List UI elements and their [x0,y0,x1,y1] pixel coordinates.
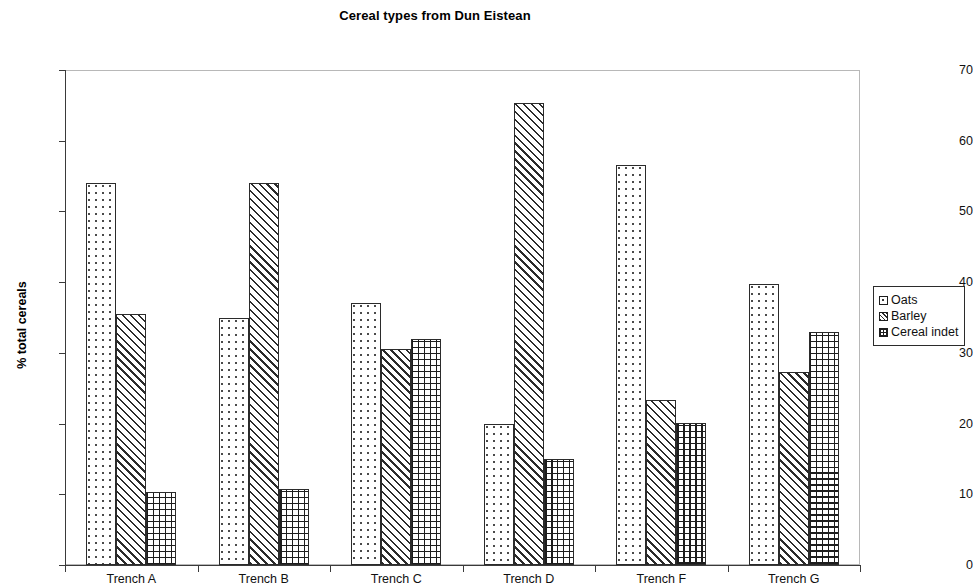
x-axis-category-label: Trench A [65,572,198,586]
y-tick-mark [59,424,65,425]
bar-cereal-indet-trench-c [411,339,441,565]
y-tick-label: 30 [931,346,973,360]
bar-cereal-indet-trench-a [146,492,176,565]
bar-barley-trench-g [779,372,809,565]
bar-oats-trench-c [351,303,381,565]
y-tick-mark [59,494,65,495]
y-tick-mark [59,353,65,354]
chart-title: Cereal types from Dun Eistean [0,8,870,23]
y-axis-line [65,70,66,566]
x-axis-category-label: Trench G [728,572,861,586]
y-tick-label: 60 [931,134,973,148]
plot-area [65,70,860,565]
y-tick-label: 50 [931,204,973,218]
legend-item[interactable]: Barley [879,308,960,324]
y-axis-title: % total cereals [15,245,29,405]
x-tick-mark [860,566,861,572]
bar-cereal-indet-trench-b [279,489,309,565]
bar-barley-trench-f [646,400,676,565]
bar-cereal-indet-trench-d [544,459,574,565]
y-tick-label: 20 [931,417,973,431]
y-tick-mark [59,70,65,71]
legend-label: Cereal indet [891,325,958,339]
y-tick-label: 10 [931,487,973,501]
chart-legend: OatsBarleyCereal indet [873,286,965,346]
y-tick-mark [59,211,65,212]
bar-barley-trench-c [381,349,411,565]
bar-cereal-indet-trench-g [809,332,839,565]
bar-oats-trench-d [484,424,514,565]
legend-swatch-barley-icon [879,312,888,321]
x-axis-category-label: Trench D [463,572,596,586]
legend-item[interactable]: Oats [879,292,960,308]
x-axis-category-label: Trench C [330,572,463,586]
bar-barley-trench-a [116,314,146,565]
y-tick-mark [59,282,65,283]
bar-oats-trench-g [749,284,779,565]
legend-label: Oats [891,293,917,307]
bar-barley-trench-b [249,183,279,565]
y-tick-label: 0 [931,558,973,572]
bar-oats-trench-a [86,183,116,565]
legend-label: Barley [891,309,926,323]
bar-cereal-indet-trench-f [676,423,706,565]
legend-item[interactable]: Cereal indet [879,324,960,340]
y-tick-label: 70 [931,63,973,77]
y-tick-mark [59,141,65,142]
legend-swatch-oats-icon [879,296,888,305]
legend-swatch-cereal-indet-icon [879,328,888,337]
bar-oats-trench-b [219,318,249,566]
x-axis-category-label: Trench F [595,572,728,586]
x-axis-category-label: Trench B [198,572,331,586]
bar-oats-trench-f [616,165,646,565]
bar-barley-trench-d [514,103,544,565]
